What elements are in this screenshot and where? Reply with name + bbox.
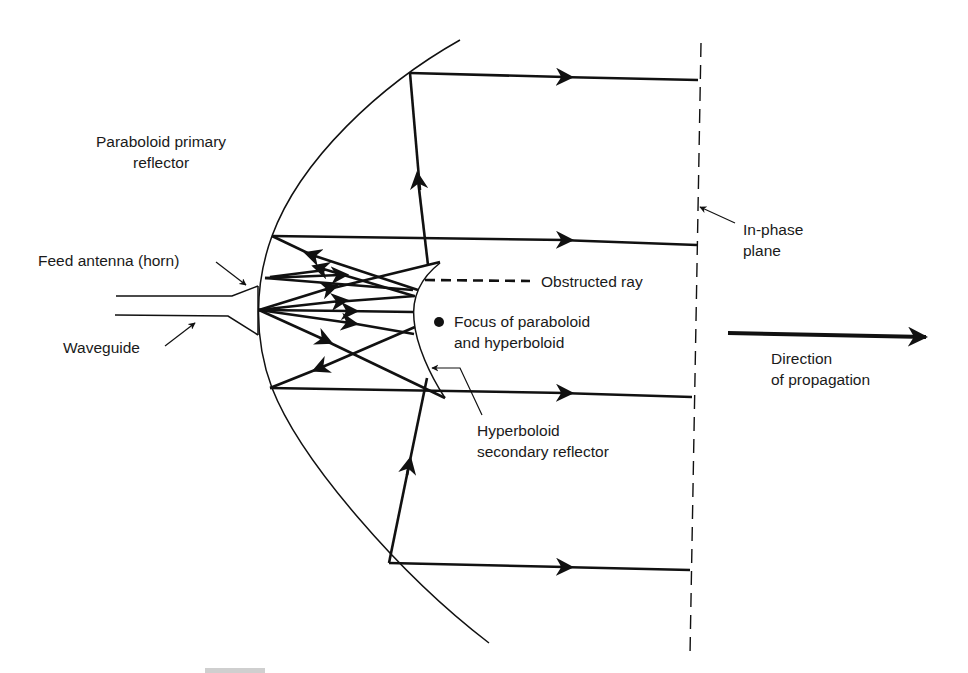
secondary-reflector-label-line1: Hyperboloid [477, 420, 609, 441]
focus-label: Focus of paraboloid and hyperboloid [454, 311, 590, 353]
primary-reflector-label-line1: Paraboloid primary [96, 131, 226, 152]
cropped-caption-fragment [205, 668, 265, 673]
in-phase-plane [690, 43, 701, 655]
feed-antenna-leader-arrow [216, 262, 246, 285]
direction-label-line2: of propagation [771, 369, 870, 390]
direction-label: Direction of propagation [771, 348, 870, 390]
in-phase-plane-label-line1: In-phase [743, 219, 803, 240]
direction-label-line1: Direction [771, 348, 870, 369]
primary-reflector-label: Paraboloid primary reflector [96, 131, 226, 173]
feed-ray-bundle [259, 236, 445, 398]
hyperboloid-secondary-reflector [414, 263, 445, 398]
secondary-reflector-label-line2: secondary reflector [477, 441, 609, 462]
primary-reflector-label-line2: reflector [96, 152, 226, 173]
waveguide-label: Waveguide [63, 337, 140, 358]
feed-horn [115, 286, 258, 335]
focus-label-line2: and hyperboloid [454, 332, 590, 353]
focus-label-line1: Focus of paraboloid [454, 311, 590, 332]
secondary-reflector-label: Hyperboloid secondary reflector [477, 420, 609, 462]
obstructed-ray-label: Obstructed ray [541, 271, 643, 292]
obstructed-ray [425, 280, 530, 281]
direction-of-propagation-arrow [728, 333, 926, 337]
in-phase-plane-label-line2: plane [743, 240, 803, 261]
in-phase-plane-label: In-phase plane [743, 219, 803, 261]
secondary-to-primary-rays [389, 73, 428, 563]
feed-antenna-label: Feed antenna (horn) [38, 250, 179, 271]
in-phase-leader-arrow [700, 207, 735, 223]
waveguide-leader-arrow [165, 323, 195, 346]
focus-point [434, 317, 444, 327]
